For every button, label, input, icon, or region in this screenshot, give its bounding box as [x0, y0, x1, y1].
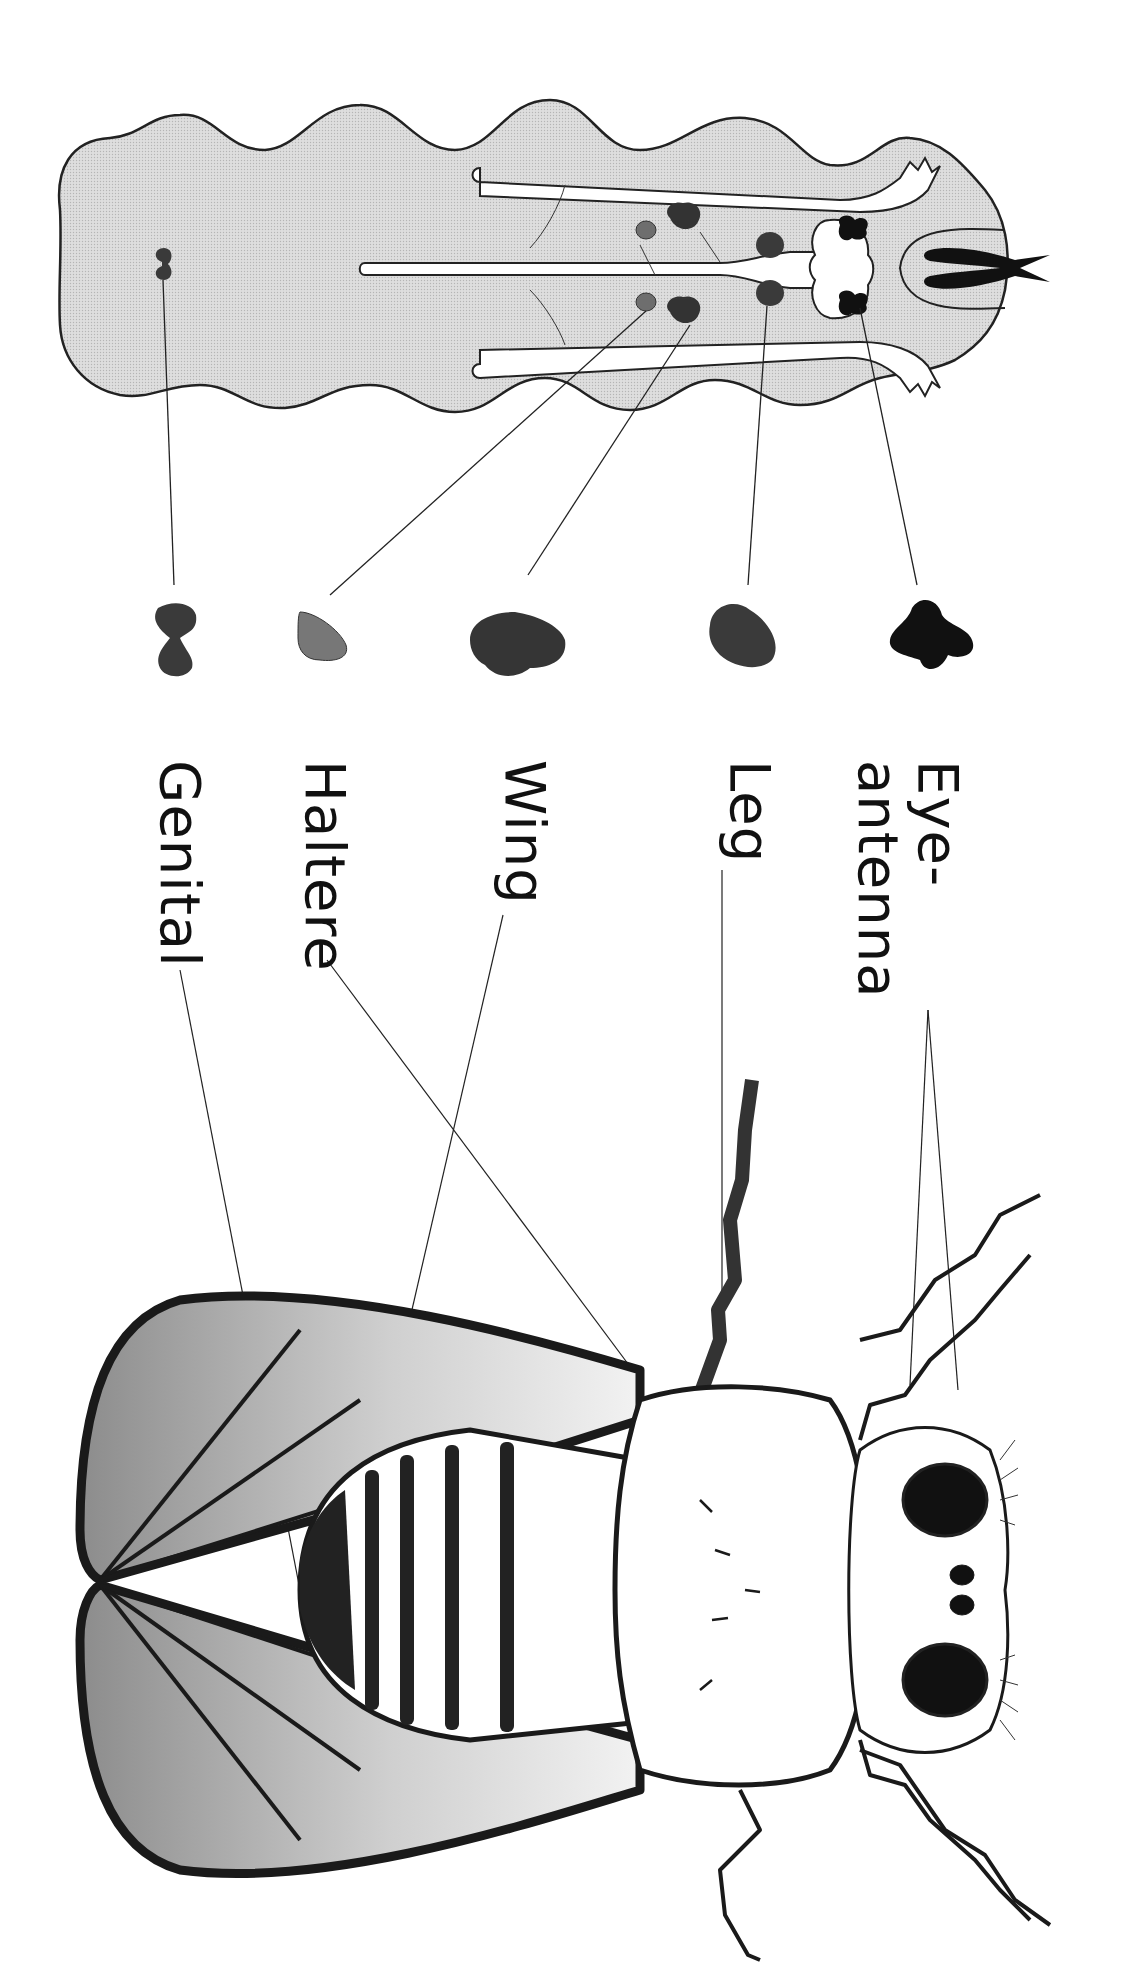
diagram-canvas [0, 0, 1140, 1968]
disc-haltere [298, 612, 347, 660]
label-wing: Wing [495, 760, 555, 905]
disc-leg [709, 604, 775, 667]
fly-eye-right [903, 1644, 987, 1716]
isolated-discs [155, 600, 973, 676]
larva [59, 100, 1050, 412]
label-leg: Leg [720, 760, 780, 863]
fly-leg-highlighted [700, 1080, 752, 1395]
figure: Eye- antenna Leg Wing Haltere Genital [0, 0, 1140, 1968]
disc-wing [470, 612, 565, 676]
fly-eye-left [903, 1464, 987, 1536]
label-eye-antenna: Eye- antenna [848, 760, 968, 999]
fly-thorax [615, 1387, 868, 1785]
fly-abdomen [300, 1430, 660, 1740]
disc-genital [155, 603, 196, 676]
label-genital: Genital [150, 760, 210, 968]
label-haltere: Haltere [295, 760, 355, 972]
fly-antenna-right [950, 1595, 974, 1615]
fly-antenna-left [950, 1565, 974, 1585]
disc-eye-antenna [890, 600, 973, 669]
adult-fly [80, 1080, 1050, 1960]
